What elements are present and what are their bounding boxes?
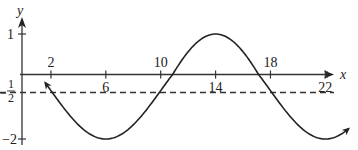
x-tick-label: 10: [154, 55, 168, 70]
x-axis-label: x: [339, 67, 347, 82]
x-tick-label: 6: [102, 80, 109, 95]
x-tick-label: 18: [263, 55, 277, 70]
y-label-minus-sign: −: [0, 86, 7, 100]
y-axis-label: y: [15, 3, 24, 18]
sinusoid-curve: [45, 34, 348, 139]
x-tick-label: 2: [47, 55, 54, 70]
y-label-denominator: 2: [8, 91, 14, 105]
y-tick-label-neg2: −2: [2, 132, 17, 147]
curve-start-arrow-icon: [44, 81, 52, 90]
y-tick-label-1: 1: [7, 27, 14, 42]
x-tick-label: 14: [209, 80, 223, 95]
curve-end-arrow-icon: [342, 127, 350, 135]
y-label-numerator: 1: [8, 77, 14, 91]
sinusoid-chart: x y 2610141822 1 −2 − 1 2: [0, 0, 358, 150]
x-tick-label: 22: [318, 80, 332, 95]
